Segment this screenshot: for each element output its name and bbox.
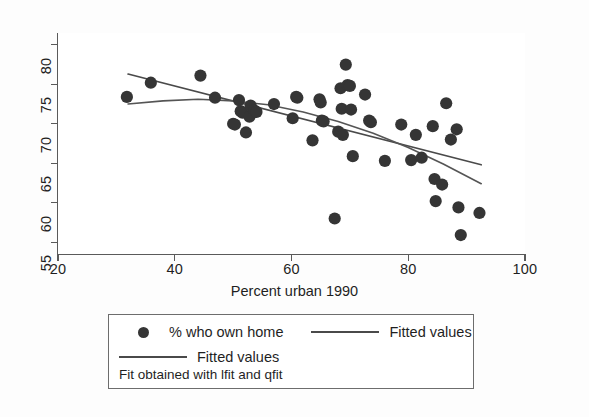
y-tick-label: 70 [38,122,54,168]
plot-area [58,33,525,254]
legend: % who own home Fitted values Fitted valu… [108,314,474,389]
legend-label-line2: Fitted values [191,349,279,365]
legend-entry-line2[interactable]: Fitted values [115,349,279,365]
y-tick-label: 75 [38,82,54,128]
legend-label-scatter: % who own home [163,324,283,340]
y-tick-label: 65 [38,161,54,207]
x-tick-label: 20 [28,261,88,277]
legend-label-line1: Fitted values [383,324,471,340]
legend-note: Fit obtained with lfit and qfit [119,367,283,382]
x-tick-label: 60 [262,261,322,277]
y-tick-label: 80 [38,43,54,89]
legend-line-icon [115,356,191,358]
y-axis-line [57,33,58,255]
x-tick-label: 100 [495,261,555,277]
x-axis-title: Percent urban 1990 [0,283,589,299]
legend-row: % who own home Fitted values [109,320,475,344]
legend-row: Fitted values [109,346,475,368]
figure-canvas: 55 60 65 70 75 80 20 40 60 80 100 Percen… [0,0,589,417]
y-tick-label: 60 [38,201,54,247]
legend-entry-line1[interactable]: Fitted values [307,324,471,340]
legend-marker-icon [123,327,163,338]
x-tick-label: 80 [378,261,438,277]
legend-entry-scatter[interactable]: % who own home [123,324,283,340]
x-tick-label: 40 [145,261,205,277]
legend-line-icon [307,331,383,333]
